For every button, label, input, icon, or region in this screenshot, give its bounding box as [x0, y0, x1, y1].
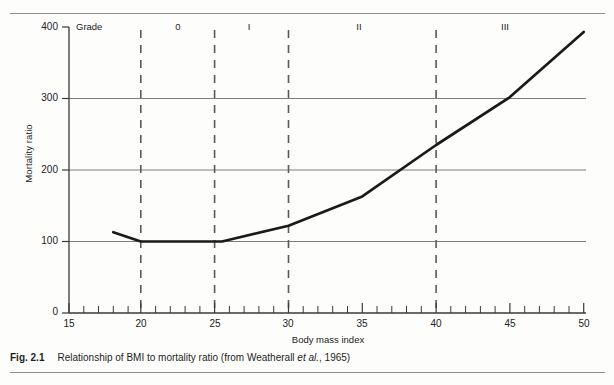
- y-tick-label-400: 400: [24, 21, 58, 32]
- y-tick-label-300: 300: [24, 92, 58, 103]
- grade-label-II: II: [329, 21, 389, 32]
- grade-label-III: III: [475, 21, 535, 32]
- x-tick-label-15: 15: [51, 318, 87, 329]
- x-tick-label-30: 30: [270, 318, 306, 329]
- x-axis-minor-ticks: [84, 306, 569, 313]
- gridlines: [69, 99, 586, 242]
- figure-caption-text-after: , 1965): [319, 352, 350, 363]
- x-tick-label-35: 35: [344, 318, 380, 329]
- figure-caption-text-before: Relationship of BMI to mortality ratio (…: [57, 352, 297, 363]
- x-tick-label-20: 20: [123, 318, 159, 329]
- x-tick-label-50: 50: [566, 318, 602, 329]
- grade-label-I: I: [219, 21, 279, 32]
- y-tick-label-0: 0: [24, 306, 58, 317]
- chart-figure: 400 300 200 100 0 15 20 25 30 35 40 45 5…: [0, 0, 614, 385]
- x-axis-major-ticks: [69, 303, 584, 313]
- y-axis-ticks: [62, 27, 69, 313]
- x-tick-label-45: 45: [492, 318, 528, 329]
- grade-dividers: [141, 30, 436, 313]
- mortality-ratio-line: [113, 32, 583, 242]
- x-axis-title: Body mass index: [268, 334, 388, 345]
- y-axis-title: Mortality ratio: [23, 104, 34, 204]
- x-tick-label-40: 40: [418, 318, 454, 329]
- x-tick-label-25: 25: [197, 318, 233, 329]
- y-tick-label-100: 100: [24, 235, 58, 246]
- figure-caption-italic: et al.: [297, 352, 319, 363]
- grade-label-0: 0: [148, 21, 208, 32]
- figure-caption: Fig. 2.1Relationship of BMI to mortality…: [10, 352, 600, 363]
- grade-legend-label: Grade: [76, 21, 136, 32]
- figure-number: Fig. 2.1: [10, 352, 44, 363]
- figure-page: 400 300 200 100 0 15 20 25 30 35 40 45 5…: [0, 0, 614, 385]
